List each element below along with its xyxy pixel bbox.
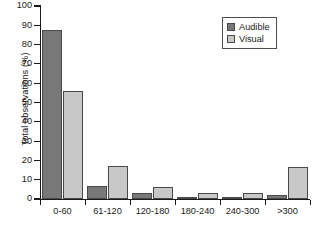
x-axis-tick [265, 200, 266, 205]
bar-audible-61-120 [87, 186, 108, 200]
chart-legend: Audible Visual [222, 17, 277, 49]
bar-visual-61-120 [108, 166, 129, 199]
y-axis-tick-label: 20 [0, 156, 32, 165]
bar-visual-240-300 [243, 193, 264, 199]
x-axis-category-label: 120-180 [130, 206, 175, 216]
bar-audible-0-60 [42, 30, 63, 199]
bar-audible-120-180 [132, 193, 153, 199]
x-axis-tick [310, 200, 311, 205]
x-axis-category-label: >300 [265, 206, 310, 216]
y-axis-tick-label: 10 [0, 175, 32, 184]
legend-label-visual: Visual [239, 34, 264, 44]
y-axis-tick-label: 100 [0, 1, 32, 10]
x-axis-tick [40, 200, 41, 205]
legend-item-audible: Audible [227, 21, 270, 33]
y-axis-tick-label: 90 [0, 21, 32, 30]
bar-visual-180-240 [198, 193, 219, 199]
y-axis-tick-label: 40 [0, 117, 32, 126]
bar-chart: Total observations (%) 01020304050607080… [0, 0, 314, 226]
y-axis-tick-label: 80 [0, 40, 32, 49]
bar-visual-0-60 [63, 91, 84, 199]
x-axis-tick [85, 200, 86, 205]
legend-label-audible: Audible [239, 22, 270, 32]
x-axis-category-label: 240-300 [220, 206, 265, 216]
x-axis-category-label: 61-120 [85, 206, 130, 216]
bar-visual-120-180 [153, 187, 174, 199]
y-axis-tick-label: 0 [0, 194, 32, 203]
legend-item-visual: Visual [227, 33, 270, 45]
light-gray-swatch-icon [227, 35, 235, 43]
x-axis-tick [175, 200, 176, 205]
y-axis-tick-label: 70 [0, 59, 32, 68]
y-axis-tick-label: 50 [0, 98, 32, 107]
y-axis-tick-label: 30 [0, 137, 32, 146]
bar-audible-180-240 [177, 197, 198, 199]
bar-visual->300 [288, 167, 309, 199]
x-axis-category-label: 0-60 [40, 206, 85, 216]
bar-audible-240-300 [222, 197, 243, 199]
dark-gray-swatch-icon [227, 23, 235, 31]
x-axis-tick [130, 200, 131, 205]
x-axis-category-label: 180-240 [175, 206, 220, 216]
bar-audible->300 [267, 195, 288, 199]
x-axis-tick [220, 200, 221, 205]
y-axis-tick-label: 60 [0, 79, 32, 88]
